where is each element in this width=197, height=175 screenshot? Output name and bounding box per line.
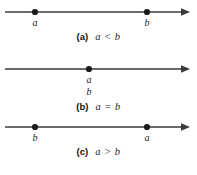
caption-c: (c)a > b xyxy=(0,146,197,158)
arrowhead-right-icon xyxy=(181,8,190,16)
point-dot-a2 xyxy=(144,9,150,15)
panel-a: a b (a)a < b xyxy=(0,0,197,58)
panel-b: a b (b)a = b xyxy=(0,57,197,115)
number-line-axis-b xyxy=(0,57,197,87)
number-line-figure: a b (a)a < b a b (b)a = b b a (c)a > b xyxy=(0,0,197,175)
caption-b: (b)a = b xyxy=(0,101,197,113)
caption-tag-b: (b) xyxy=(76,101,88,112)
point-label-b-upper: a xyxy=(82,75,96,85)
caption-relation-b: a = b xyxy=(95,101,120,112)
point-label-c-right: a xyxy=(140,133,154,143)
panel-c: b a (c)a > b xyxy=(0,115,197,175)
point-dot-b1 xyxy=(86,66,92,72)
point-label-a-left: a xyxy=(28,18,42,28)
point-dot-a1 xyxy=(32,9,38,15)
point-dot-c1 xyxy=(32,124,38,130)
arrowhead-right-icon xyxy=(181,123,190,131)
caption-relation-c: a > b xyxy=(95,146,120,157)
point-dot-c2 xyxy=(144,124,150,130)
caption-relation-a: a < b xyxy=(95,31,120,42)
caption-tag-a: (a) xyxy=(77,31,89,42)
point-label-c-left: b xyxy=(28,133,42,143)
caption-a: (a)a < b xyxy=(0,31,197,43)
caption-tag-c: (c) xyxy=(77,146,89,157)
arrowhead-right-icon xyxy=(181,65,190,73)
point-label-a-right: b xyxy=(140,18,154,28)
point-label-b-lower: b xyxy=(82,87,96,97)
